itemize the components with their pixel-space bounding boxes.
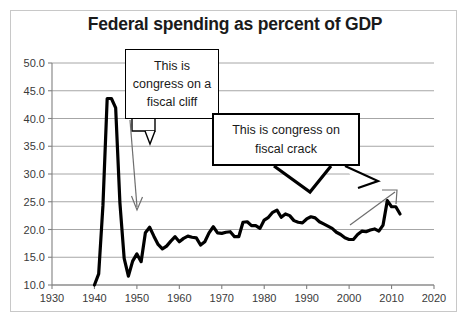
callout-crack-line-1: This is congress on [232,121,340,140]
x-tick-label: 1940 [71,292,117,304]
x-tick-label: 1950 [114,292,160,304]
x-tick-label: 2010 [369,292,415,304]
y-tick-label: 35.0 [5,140,45,152]
y-tick-label: 50.0 [5,57,45,69]
fiscal-crack-arrow [350,190,397,225]
x-tick-label: 1930 [29,292,75,304]
y-tick-label: 30.0 [5,168,45,180]
callout-cliff-line-2: congress on a [133,75,212,93]
gridlines [52,63,434,285]
x-tick-label: 1980 [241,292,287,304]
x-tick-label: 1990 [284,292,330,304]
callout-crack-line-2: fiscal crack [255,140,317,159]
chart-container: Federal spending as percent of GDP 50.04… [0,0,469,324]
callout-cliff-line-3: fiscal cliff [147,93,197,111]
y-tick-label: 25.0 [5,196,45,208]
fiscal-cliff-callout-tail [132,119,155,144]
y-tick-label: 15.0 [5,251,45,263]
y-tick-label: 10.0 [5,279,45,291]
y-tick-label: 20.0 [5,224,45,236]
x-tick-label: 2000 [326,292,372,304]
x-tick-label: 1970 [199,292,245,304]
y-tick-label: 40.0 [5,113,45,125]
x-tick-label: 1960 [156,292,202,304]
fiscal-crack-callout: This is congress on fiscal crack [212,113,360,166]
x-tick-marks [52,285,434,289]
y-tick-label: 45.0 [5,85,45,97]
y-tick-marks [48,63,52,285]
fiscal-crack-callout-tail [274,166,378,192]
fiscal-cliff-arrow [130,120,143,210]
fiscal-cliff-callout: This is congress on a fiscal cliff [125,49,219,119]
callout-cliff-line-1: This is [154,57,190,75]
x-tick-label: 2020 [411,292,457,304]
